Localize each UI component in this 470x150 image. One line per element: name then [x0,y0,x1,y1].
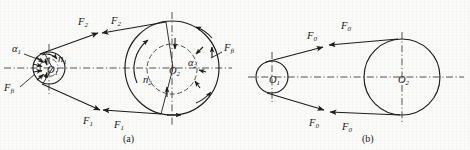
label-o2-b: O2 [398,74,410,87]
caption-panel-a: (a) [123,133,134,145]
label-f0-lower-left: F0 [308,117,319,130]
friction-arrow [196,47,203,54]
label-o1-b: O1 [269,74,280,87]
label-f2-left: F2 [77,16,88,29]
label-f1-right: F1 [113,119,124,132]
label-f2-right: F2 [110,15,121,28]
friction-force-arrows-o2 [167,38,212,115]
belt-drive-figure: α1 Ffi n1 O1 [0,0,470,150]
force-arrow-f0-lower-left [267,93,324,110]
force-arrow-f2-left [40,33,98,54]
label-f1-left: F1 [82,115,93,128]
label-n2: n2 [143,74,152,87]
label-n1: n1 [58,53,67,66]
label-alpha1: α1 [12,43,21,56]
label-f0-lower-right: F0 [341,121,352,134]
label-f0-upper-right: F0 [340,20,351,33]
driven-pulley-b: O2 [364,32,440,124]
driving-pulley-a: α1 Ffi n1 O1 [3,43,67,95]
label-f0-upper-left: F0 [306,30,317,43]
driven-pulley-a: n2 O2 α2 Ffi [125,12,234,126]
friction-arrow [37,75,44,81]
label-ffi-left: Ffi [3,82,14,95]
panel-a: α1 Ffi n1 O1 [3,12,234,145]
force-arrow-f0-upper-left [266,47,323,62]
caption-panel-b: (b) [362,133,374,145]
panel-b: O1 O2 F0 F0 F0 F0 (b) [248,20,464,145]
ffi-leader-line-o1 [20,74,35,87]
friction-arrow [199,70,206,72]
force-arrow-f1-left [42,84,100,110]
friction-arrow [195,81,200,88]
label-ffi-right: Ffi [223,42,234,55]
